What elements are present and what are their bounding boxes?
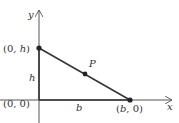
point-right	[127, 97, 132, 102]
y-axis-label: y	[27, 9, 34, 20]
x-axis-label: x	[167, 101, 173, 112]
diagram-canvas: y x (0, h) (0, 0) (b, 0) P h b	[0, 0, 179, 123]
point-p-label: P	[88, 58, 96, 69]
point-top	[36, 45, 41, 50]
point-p	[83, 72, 88, 77]
coordinate-diagram: y x (0, h) (0, 0) (b, 0) P h b	[0, 0, 179, 123]
base-label: b	[76, 102, 82, 113]
right-point-label: (b, 0)	[116, 103, 143, 114]
origin-label: (0, 0)	[3, 98, 30, 109]
top-point-label: (0, h)	[3, 43, 30, 54]
height-label: h	[29, 72, 35, 83]
